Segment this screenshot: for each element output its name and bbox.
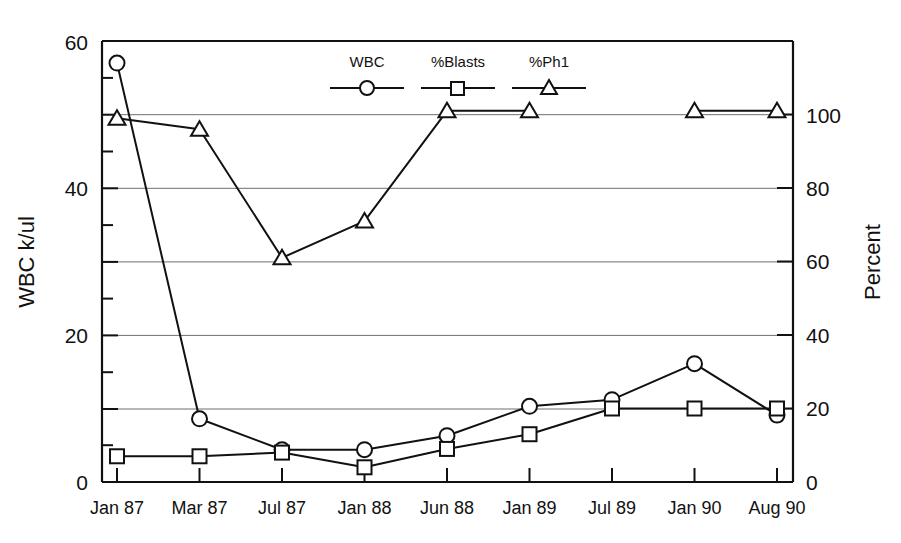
xtick-label-jul-87: Jul 87 [258,498,306,518]
square-marker [110,449,124,463]
left-tick-label-40: 40 [65,177,88,200]
circle-marker [192,411,207,426]
square-marker [275,446,289,460]
right-tick-label-60: 60 [806,250,829,273]
xtick-label-jun-88: Jun 88 [420,498,474,518]
left-tick-label-0: 0 [76,471,88,494]
circle-marker [522,399,537,414]
right-tick-label-20: 20 [806,397,829,420]
square-marker [358,460,372,474]
line-chart: 0 20 40 60 WBC k/ul 0 20 40 60 80 100 Pe… [0,0,901,543]
circle-marker [360,81,374,95]
right-tick-label-100: 100 [806,104,841,127]
xtick-label-jul-89: Jul 89 [588,498,636,518]
circle-marker [110,56,125,71]
left-tick-label-20: 20 [65,324,88,347]
xtick-label-jan-88: Jan 88 [337,498,391,518]
xtick-label-jan-89: Jan 89 [502,498,556,518]
xtick-label-jan-87: Jan 87 [90,498,144,518]
right-tick-label-0: 0 [806,471,818,494]
circle-marker [687,356,702,371]
legend-label-wbc: WBC [350,53,385,70]
chart-figure: 0 20 40 60 WBC k/ul 0 20 40 60 80 100 Pe… [0,0,901,543]
square-marker [193,449,207,463]
legend-label-ph1: %Ph1 [529,53,569,70]
square-marker [605,402,619,416]
right-axis-title: Percent [860,224,885,300]
left-axis-title: WBC k/ul [14,216,39,308]
xtick-label-aug-90: Aug 90 [748,498,805,518]
right-tick-label-40: 40 [806,324,829,347]
square-marker [688,402,702,416]
right-tick-label-80: 80 [806,177,829,200]
xtick-label-jan-90: Jan 90 [667,498,721,518]
square-marker [770,402,784,416]
square-marker [523,427,537,441]
square-marker [451,82,464,95]
square-marker [440,442,454,456]
bottom-axis-tick-labels: Jan 87 Mar 87 Jul 87 Jan 88 Jun 88 Jan 8… [90,498,806,518]
circle-marker [357,442,372,457]
legend-label-blasts: %Blasts [431,53,485,70]
left-tick-label-60: 60 [65,31,88,54]
xtick-label-mar-87: Mar 87 [171,498,227,518]
